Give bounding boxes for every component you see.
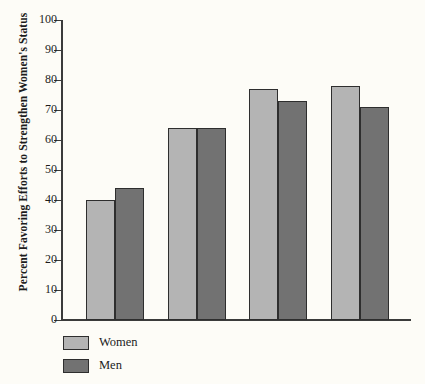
bar-men-group3 bbox=[278, 101, 307, 320]
y-tick-label: 70 bbox=[27, 102, 57, 117]
bar-women-group3 bbox=[249, 89, 278, 320]
legend-label-women: Women bbox=[99, 335, 138, 350]
y-tick-label: 30 bbox=[27, 222, 57, 237]
legend-swatch-men-icon bbox=[63, 359, 89, 373]
legend-swatch-women-icon bbox=[63, 336, 89, 350]
y-tick-label: 10 bbox=[27, 282, 57, 297]
legend-label-men: Men bbox=[99, 358, 122, 373]
y-tick-label: 90 bbox=[27, 42, 57, 57]
y-tick-label: 50 bbox=[27, 162, 57, 177]
legend: Women Men bbox=[63, 331, 263, 377]
bar-men-group2 bbox=[197, 128, 226, 320]
y-axis-line bbox=[61, 20, 63, 320]
bar-women-group1 bbox=[86, 200, 115, 320]
bar-women-group4 bbox=[331, 86, 360, 320]
y-tick-label: 80 bbox=[27, 72, 57, 87]
bar-men-group4 bbox=[360, 107, 389, 320]
plot-area: 1009080706050403020100 bbox=[61, 20, 411, 320]
y-tick-label: 0 bbox=[27, 312, 57, 327]
y-tick-label: 100 bbox=[27, 12, 57, 27]
bar-men-group1 bbox=[115, 188, 144, 320]
bar-women-group2 bbox=[168, 128, 197, 320]
y-tick-label: 40 bbox=[27, 192, 57, 207]
y-tick-label: 20 bbox=[27, 252, 57, 267]
legend-item-men: Men bbox=[63, 354, 263, 377]
y-tick-label: 60 bbox=[27, 132, 57, 147]
legend-item-women: Women bbox=[63, 331, 263, 354]
bar-chart: Percent Favoring Efforts to Strengthen W… bbox=[0, 0, 425, 384]
